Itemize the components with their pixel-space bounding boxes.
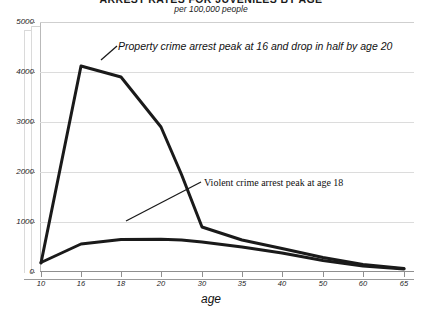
leader-line-violent bbox=[126, 182, 201, 221]
annotation-violent-peak: Violent crime arrest peak at age 18 bbox=[204, 177, 343, 188]
chart-container: ARREST RATES FOR JUVENILES BY AGE per 10… bbox=[0, 0, 422, 314]
leader-line-property bbox=[101, 46, 117, 60]
annotation-property-peak: Property crime arrest peak at 16 and dro… bbox=[118, 40, 392, 52]
